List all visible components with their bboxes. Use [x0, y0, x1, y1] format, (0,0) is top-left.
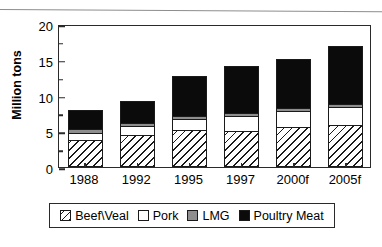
legend-label: LMG [202, 209, 229, 223]
x-axis-tick [293, 163, 295, 167]
bar-group [276, 24, 311, 167]
x-axis-tick [84, 163, 86, 167]
bar-segment-poultry [68, 110, 103, 130]
bar-segment-beef [328, 124, 363, 167]
bar-segment-poultry [172, 76, 207, 117]
bar-segment-beef [224, 131, 259, 167]
x-axis-tick-label: 1988 [58, 172, 110, 187]
legend-item[interactable]: Poultry Meat [239, 209, 324, 223]
bar-segment-poultry [276, 59, 311, 110]
bar-segment-pork [224, 116, 259, 132]
bar-series-container [59, 26, 370, 167]
x-axis-tick [189, 163, 191, 167]
x-axis-tick-label: 1992 [110, 172, 162, 187]
legend-item[interactable]: Pork [138, 209, 179, 223]
x-axis-tick [345, 163, 347, 167]
bar-group [68, 24, 103, 167]
plot-area: 05101520 [58, 25, 371, 168]
legend-swatch-icon [187, 210, 198, 221]
page-top-rule [0, 9, 382, 12]
y-axis-tick-major [59, 168, 65, 170]
x-axis-tick [137, 163, 139, 167]
chart-legend: Beef\VealPorkLMGPoultry Meat [49, 203, 335, 228]
x-axis-tick-label: 2000f [267, 172, 319, 187]
bar-segment-poultry [224, 66, 259, 114]
y-axis-tick-label: 0 [46, 162, 53, 177]
bar-segment-beef [172, 129, 207, 167]
bar-segment-pork [68, 133, 103, 141]
legend-label: Beef\Veal [75, 209, 129, 223]
y-axis-title: Million tons [10, 37, 24, 133]
bar-group [172, 24, 207, 167]
bar-group [224, 24, 259, 167]
bar-segment-pork [120, 126, 155, 136]
chart-figure: Million tons 05101520 198819921995199720… [0, 0, 382, 247]
legend-label: Poultry Meat [254, 209, 324, 223]
bar-segment-pork [172, 119, 207, 131]
legend-item[interactable]: LMG [187, 209, 229, 223]
bar-group [120, 24, 155, 167]
x-axis-tick [241, 163, 243, 167]
legend-swatch-icon [239, 210, 250, 221]
legend-item[interactable]: Beef\Veal [60, 209, 129, 223]
legend-swatch-icon [138, 210, 149, 221]
y-axis-tick-label: 20 [39, 19, 53, 34]
bar-segment-poultry [328, 46, 363, 105]
x-axis-tick-label: 1997 [215, 172, 267, 187]
bar-segment-beef [276, 126, 311, 167]
y-axis-tick-label: 10 [39, 90, 53, 105]
y-axis-tick-label: 5 [46, 126, 53, 141]
bar-segment-pork [328, 106, 363, 125]
legend-swatch-icon [60, 210, 71, 221]
x-axis-tick-label: 1995 [162, 172, 214, 187]
y-axis-tick-label: 15 [39, 54, 53, 69]
legend-label: Pork [153, 209, 179, 223]
bar-group [328, 24, 363, 167]
x-axis-tick-label: 2005f [319, 172, 371, 187]
bar-segment-poultry [120, 101, 155, 124]
bar-segment-pork [276, 111, 311, 128]
